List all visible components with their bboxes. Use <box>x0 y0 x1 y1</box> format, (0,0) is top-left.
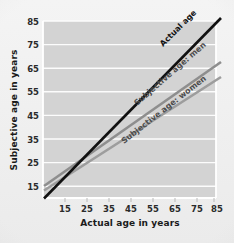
x-tick-label-65: 65 <box>169 204 181 214</box>
x-tick-label-35: 35 <box>103 204 115 214</box>
x-tick-label-15: 15 <box>59 204 71 214</box>
x-tick-label-55: 55 <box>147 204 159 214</box>
y-tick-label-45: 45 <box>27 111 39 121</box>
x-tick-label-45: 45 <box>125 204 137 214</box>
y-axis-title: Subjective age in years <box>9 50 19 171</box>
chart-figure: Actual age Subjective age: men Subjectiv… <box>0 0 234 243</box>
y-tick-label-35: 35 <box>27 135 39 145</box>
x-tick-label-85: 85 <box>211 204 223 214</box>
x-axis-title: Actual age in years <box>80 218 179 228</box>
x-tick-label-75: 75 <box>191 204 203 214</box>
y-tick-label-75: 75 <box>27 40 39 50</box>
y-tick-label-85: 85 <box>27 17 39 27</box>
y-tick-label-25: 25 <box>27 158 39 168</box>
line-chart: Actual age Subjective age: men Subjectiv… <box>0 0 234 243</box>
x-tick-label-25: 25 <box>81 204 93 214</box>
y-tick-label-65: 65 <box>27 64 39 74</box>
y-tick-label-15: 15 <box>27 182 39 192</box>
y-tick-label-55: 55 <box>27 87 39 97</box>
